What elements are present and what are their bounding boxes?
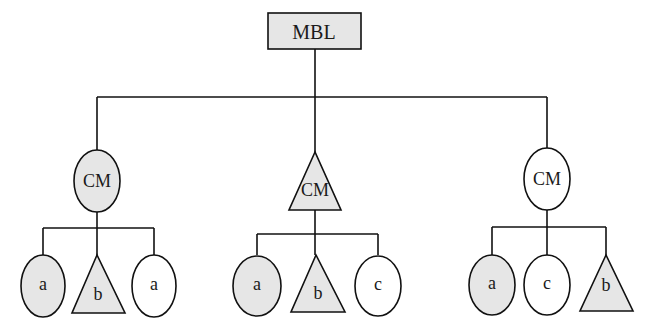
- leaf-label: a: [150, 274, 158, 294]
- cm-node-right: CM: [524, 148, 570, 210]
- root-label: MBL: [292, 21, 335, 43]
- leaf-label: a: [39, 274, 47, 294]
- cm-node-left: CM: [74, 150, 120, 212]
- leaf-label: a: [253, 274, 261, 294]
- cm-middle-label: CM: [301, 180, 329, 200]
- cm-left-label: CM: [83, 171, 111, 191]
- leaf-left-3: a: [132, 255, 176, 317]
- leaf-right-2: c: [524, 255, 570, 315]
- leaf-middle-1: a: [233, 256, 281, 316]
- leaf-right-1: a: [469, 255, 515, 315]
- leaf-label: c: [374, 274, 382, 294]
- leaf-label: b: [602, 275, 611, 295]
- leaf-left-2: b: [72, 255, 125, 313]
- leaf-label: a: [488, 273, 496, 293]
- leaf-label: b: [94, 284, 103, 304]
- leaf-label: c: [543, 273, 551, 293]
- leaf-left-1: a: [21, 255, 65, 317]
- leaf-middle-3: c: [355, 256, 401, 316]
- connectors: [43, 49, 606, 255]
- hierarchy-diagram: MBL CM CM CM a b a a b c a: [0, 0, 654, 332]
- cm-node-middle: CM: [289, 152, 341, 210]
- leaf-right-3: b: [580, 255, 633, 311]
- leaf-middle-2: b: [291, 255, 345, 312]
- cm-right-label: CM: [533, 169, 561, 189]
- root-node-mbl: MBL: [268, 13, 361, 49]
- leaf-label: b: [314, 283, 323, 303]
